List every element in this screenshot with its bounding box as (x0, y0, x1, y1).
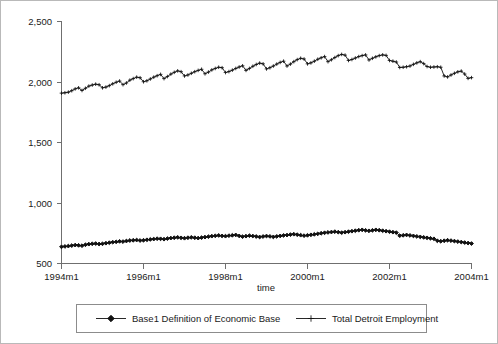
data-point-marker-plus (67, 90, 71, 94)
x-tick-label: 2000m1 (290, 271, 324, 282)
series-2 (60, 53, 474, 95)
data-point-marker-plus (381, 53, 385, 57)
data-point-marker-plus (371, 56, 375, 60)
data-point-marker-plus (73, 87, 77, 91)
data-point-marker-plus (316, 57, 320, 61)
data-point-marker-plus (131, 77, 135, 81)
legend-label: Base1 Definition of Economic Base (132, 313, 280, 324)
y-axis: 5001,0001,5002,0002,500 (28, 16, 61, 269)
data-point-marker-plus (360, 54, 364, 58)
data-point-marker-plus (94, 82, 98, 86)
data-point-marker-plus (308, 315, 314, 321)
data-point-marker-plus (70, 89, 74, 93)
data-point-marker-plus (149, 77, 153, 81)
data-point-marker-diamond (108, 315, 114, 321)
data-point-marker-plus (272, 64, 276, 68)
data-point-marker-plus (456, 70, 460, 74)
data-point-marker-plus (227, 70, 231, 74)
data-point-marker-plus (196, 69, 200, 73)
data-point-marker-plus (391, 59, 395, 63)
data-point-marker-plus (254, 63, 258, 67)
data-point-marker-plus (213, 67, 217, 71)
data-point-marker-plus (186, 73, 190, 77)
data-point-marker-plus (412, 63, 416, 67)
series-line (62, 54, 472, 93)
data-point-marker-plus (357, 55, 361, 59)
data-point-marker-plus (340, 53, 344, 57)
x-axis-ticks: 1994m11996m11998m12000m12002m12004m1 (44, 264, 488, 282)
legend-entry-2[interactable]: Total Detroit Employment (296, 313, 438, 324)
y-tick-label: 2,000 (28, 77, 52, 88)
data-point-marker-plus (90, 83, 94, 87)
x-tick-label: 1998m1 (208, 271, 242, 282)
data-point-marker-plus (401, 65, 405, 69)
data-point-marker-plus (135, 75, 139, 79)
data-point-marker-plus (313, 59, 317, 63)
data-point-marker-plus (104, 85, 108, 89)
legend-entry-1[interactable]: Base1 Definition of Economic Base (96, 313, 280, 324)
data-point-marker-plus (374, 55, 378, 59)
data-point-marker-diamond (470, 242, 474, 246)
data-point-marker-plus (258, 61, 262, 65)
data-point-marker-plus (350, 58, 354, 62)
data-point-marker-plus (309, 61, 313, 65)
data-point-marker-plus (449, 73, 453, 77)
data-point-marker-plus (60, 91, 64, 95)
chart-canvas: 5001,0001,5002,0002,500 1994m11996m11998… (1, 1, 498, 344)
data-point-marker-plus (278, 61, 282, 65)
data-point-marker-plus (453, 71, 457, 75)
x-tick-label: 2002m1 (372, 271, 406, 282)
y-axis-ticks: 5001,0001,5002,0002,500 (28, 16, 61, 269)
data-point-marker-plus (193, 70, 197, 74)
x-axis-title: time (257, 282, 275, 293)
series-plot-area (60, 53, 474, 249)
x-axis: 1994m11996m11998m12000m12002m12004m1 (44, 264, 488, 282)
data-point-marker-plus (268, 66, 272, 70)
legend-label: Total Detroit Employment (332, 313, 438, 324)
x-tick-label: 1994m1 (44, 271, 78, 282)
series-1 (60, 228, 474, 249)
data-point-marker-plus (470, 76, 474, 80)
data-point-marker-plus (275, 62, 279, 66)
data-point-marker-diamond (121, 240, 125, 244)
data-point-marker-plus (354, 56, 358, 60)
data-point-marker-plus (108, 84, 112, 88)
data-point-marker-plus (439, 65, 443, 69)
chart-legend: Base1 Definition of Economic BaseTotal D… (77, 305, 439, 333)
chart-figure: 5001,0001,5002,0002,500 1994m11996m11998… (0, 0, 498, 344)
data-point-marker-plus (446, 75, 450, 79)
data-point-marker-plus (114, 80, 118, 84)
data-point-marker-plus (319, 56, 323, 60)
data-point-marker-plus (237, 65, 241, 69)
data-point-marker-plus (63, 91, 67, 95)
data-point-marker-diamond (101, 242, 105, 246)
y-tick-label: 1,000 (28, 198, 52, 209)
data-point-marker-plus (429, 65, 433, 69)
data-point-marker-plus (152, 75, 156, 79)
data-point-marker-plus (436, 65, 440, 69)
data-point-marker-plus (442, 74, 446, 78)
data-point-marker-plus (145, 79, 149, 83)
y-tick-label: 1,500 (28, 137, 52, 148)
x-tick-label: 1996m1 (126, 271, 160, 282)
data-point-marker-diamond (316, 232, 320, 236)
data-point-marker-plus (299, 56, 303, 60)
data-point-marker-plus (155, 74, 159, 78)
data-point-marker-plus (176, 69, 180, 73)
data-point-marker-plus (231, 68, 235, 72)
data-point-marker-plus (418, 60, 422, 64)
data-point-marker-plus (190, 71, 194, 75)
data-point-marker-plus (111, 82, 115, 86)
data-point-marker-diamond (432, 237, 436, 241)
data-point-marker-plus (415, 61, 419, 65)
data-point-marker-plus (336, 54, 340, 58)
data-point-marker-plus (234, 67, 238, 71)
data-point-marker-diamond (162, 237, 166, 241)
y-tick-label: 2,500 (28, 16, 52, 27)
data-point-marker-plus (172, 71, 176, 75)
data-point-marker-plus (217, 65, 221, 69)
data-point-marker-plus (377, 54, 381, 58)
data-point-marker-plus (432, 65, 436, 69)
x-tick-label: 2004m1 (454, 271, 488, 282)
y-tick-label: 500 (36, 258, 52, 269)
